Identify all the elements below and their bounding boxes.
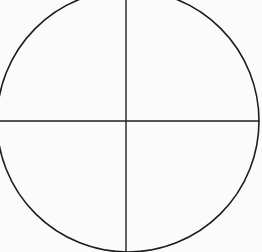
circle-outline bbox=[0, 0, 259, 252]
quadrant-circle-figure bbox=[0, 0, 262, 252]
diagram-canvas bbox=[0, 0, 262, 252]
